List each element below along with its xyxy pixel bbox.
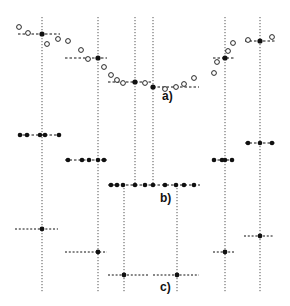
data-point-filled xyxy=(270,141,275,146)
data-point-open-circle xyxy=(215,60,220,65)
step-center-marker xyxy=(122,273,127,278)
data-point-filled xyxy=(230,158,235,163)
data-point-filled xyxy=(133,183,138,188)
data-point-open-circle xyxy=(45,42,50,47)
data-point-open-circle xyxy=(246,38,251,43)
data-point-open-circle xyxy=(192,76,197,81)
data-point-open-circle xyxy=(109,73,114,78)
data-point-open-circle xyxy=(231,41,236,46)
segment-center-marker xyxy=(222,55,227,60)
segment-center-marker xyxy=(95,55,100,60)
data-point-open-circle xyxy=(17,25,22,30)
data-point-filled xyxy=(143,183,148,188)
data-point-open-circle xyxy=(56,37,61,42)
data-point-filled xyxy=(192,183,197,188)
data-point-filled xyxy=(25,133,30,138)
data-point-open-circle xyxy=(66,39,71,44)
step-center-marker xyxy=(223,250,228,255)
segment-center-marker xyxy=(257,38,262,43)
data-point-filled xyxy=(96,158,101,163)
data-point-filled xyxy=(109,183,114,188)
data-point-open-circle xyxy=(79,48,84,53)
panel-b-steps xyxy=(18,133,275,188)
data-point-open-circle xyxy=(174,85,179,90)
segment-center-marker xyxy=(39,31,44,36)
panel-label-a: a) xyxy=(162,90,173,102)
data-point-open-circle xyxy=(26,31,31,36)
data-point-filled xyxy=(174,183,179,188)
data-point-filled xyxy=(212,158,217,163)
data-point-open-circle xyxy=(102,65,107,70)
data-point-filled xyxy=(121,183,126,188)
data-point-open-circle xyxy=(182,82,187,87)
data-point-filled xyxy=(87,158,92,163)
data-point-filled xyxy=(18,133,23,138)
panel-c-steps xyxy=(15,227,274,278)
data-point-open-circle xyxy=(212,71,217,76)
step-center-marker xyxy=(258,234,263,239)
data-point-open-circle xyxy=(115,78,120,83)
data-point-filled xyxy=(102,158,107,163)
data-point-filled xyxy=(57,133,62,138)
data-point-filled xyxy=(115,183,120,188)
panel-label-b: b) xyxy=(160,192,171,204)
data-point-filled xyxy=(38,133,43,138)
step-center-marker xyxy=(40,227,45,232)
data-point-filled xyxy=(258,141,263,146)
diagram-canvas xyxy=(0,0,290,306)
data-point-filled xyxy=(66,158,71,163)
panel-label-c: c) xyxy=(160,281,171,293)
data-point-open-circle xyxy=(121,81,126,86)
data-point-filled xyxy=(223,158,228,163)
segment-center-marker xyxy=(150,84,155,89)
data-point-filled xyxy=(182,183,187,188)
data-point-open-circle xyxy=(226,49,231,54)
data-point-open-circle xyxy=(86,57,91,62)
data-point-open-circle xyxy=(270,35,275,40)
segmentation-diagram: a) b) c) xyxy=(0,0,290,306)
data-point-filled xyxy=(246,141,251,146)
data-point-filled xyxy=(163,183,168,188)
segment-center-marker xyxy=(132,79,137,84)
step-center-marker xyxy=(175,273,180,278)
data-point-filled xyxy=(80,158,85,163)
data-point-filled xyxy=(43,133,48,138)
data-point-open-circle xyxy=(143,81,148,86)
step-center-marker xyxy=(96,250,101,255)
data-point-filled xyxy=(151,183,156,188)
panel-a-curve xyxy=(17,25,275,92)
